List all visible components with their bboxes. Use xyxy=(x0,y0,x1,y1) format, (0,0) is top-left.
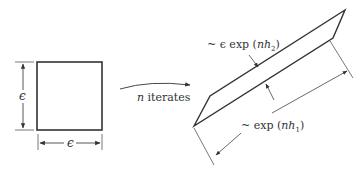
thickness-arrow-bottom xyxy=(266,84,274,100)
length-label: ~ exp (nh1) xyxy=(241,120,304,134)
thickness-arrow-top xyxy=(249,55,258,67)
iterates-text: iterates xyxy=(144,91,190,104)
iterate-arrow xyxy=(120,83,190,89)
length-var: nh xyxy=(281,119,295,132)
thickness-suffix: ) xyxy=(276,38,280,51)
width-label: ϵ xyxy=(67,137,74,149)
length-suffix: ) xyxy=(300,119,304,132)
iterates-label: n iterates xyxy=(137,92,190,103)
stretched-parallelogram xyxy=(194,10,345,126)
diagram-canvas xyxy=(0,0,363,172)
thickness-var: nh xyxy=(257,38,271,51)
height-label: ϵ xyxy=(19,90,26,102)
thickness-prefix: ~ ϵ exp ( xyxy=(207,38,257,51)
thickness-label: ~ ϵ exp (nh2) xyxy=(207,39,280,53)
initial-square xyxy=(37,62,102,130)
length-dimension xyxy=(194,41,353,165)
length-prefix: ~ exp ( xyxy=(241,119,281,132)
